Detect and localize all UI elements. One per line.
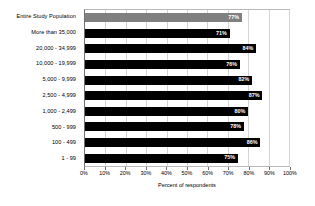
x-tick-label: 60%	[202, 171, 213, 176]
x-axis: 0%10%20%30%40%50%60%70%80%90%100%	[84, 167, 290, 179]
category-label-row: 1 - 99	[0, 151, 80, 167]
x-tick-label: 90%	[264, 171, 275, 176]
x-tick-label: 70%	[223, 171, 234, 176]
bar-value-label: 84%	[243, 46, 257, 51]
gridline	[289, 10, 290, 166]
x-tick-label: 10%	[99, 171, 110, 176]
category-label: 2,500 - 4,999	[42, 93, 76, 99]
bar-value-label: 87%	[249, 93, 263, 98]
bar-row: 77%	[85, 10, 289, 26]
category-label: Entire Study Population	[16, 14, 76, 20]
bar-row: 86%	[85, 135, 289, 151]
x-tick-label: 50%	[182, 171, 193, 176]
bar[interactable]: 84%	[85, 44, 256, 53]
bar[interactable]: 71%	[85, 29, 230, 38]
x-tick-label: 0%	[80, 171, 88, 176]
bar-row: 80%	[85, 104, 289, 120]
bar-row: 71%	[85, 26, 289, 42]
x-axis-title: Percent of respondents	[84, 183, 290, 189]
bar-row: 76%	[85, 57, 289, 73]
x-tick-label: 100%	[283, 171, 297, 176]
bar-row: 84%	[85, 41, 289, 57]
bar[interactable]: 80%	[85, 107, 248, 116]
bar-row: 75%	[85, 150, 289, 166]
bar[interactable]: 87%	[85, 91, 262, 100]
bar[interactable]: 86%	[85, 138, 260, 147]
category-label: 1 - 99	[61, 156, 76, 162]
category-label: 20,000 - 34,999	[36, 46, 76, 52]
category-label: 5,000 - 9,999	[42, 77, 76, 83]
category-label: 1,000 - 2,499	[42, 109, 76, 115]
bar-value-label: 76%	[226, 62, 240, 67]
x-tick-label: 80%	[243, 171, 254, 176]
bar[interactable]: 78%	[85, 122, 244, 131]
bar-value-label: 86%	[247, 140, 261, 145]
bar-value-label: 77%	[228, 15, 242, 20]
plot-area: 77%71%84%76%82%87%80%78%86%75%	[84, 9, 290, 167]
category-label-row: Entire Study Population	[0, 9, 80, 25]
category-label: 10,000 - 19,999	[36, 61, 76, 67]
category-label-row: More than 35,000	[0, 25, 80, 41]
bar-row: 87%	[85, 88, 289, 104]
bar[interactable]: 77%	[85, 13, 242, 22]
bar-series: 77%71%84%76%82%87%80%78%86%75%	[85, 10, 289, 166]
bar[interactable]: 82%	[85, 76, 252, 85]
bar-value-label: 78%	[230, 124, 244, 129]
category-label-row: 100 - 499	[0, 135, 80, 151]
x-tick-label: 30%	[140, 171, 151, 176]
bar-value-label: 82%	[238, 77, 252, 82]
category-label: More than 35,000	[31, 30, 76, 36]
category-label-row: 500 - 999	[0, 120, 80, 136]
x-tick-label: 40%	[161, 171, 172, 176]
category-label-row: 5,000 - 9,999	[0, 72, 80, 88]
bar-value-label: 80%	[234, 109, 248, 114]
bar[interactable]: 75%	[85, 154, 238, 163]
category-label: 500 - 999	[52, 125, 76, 131]
category-label-row: 10,000 - 19,999	[0, 56, 80, 72]
bar-value-label: 71%	[216, 31, 230, 36]
bar-row: 82%	[85, 72, 289, 88]
category-label: 100 - 499	[52, 140, 76, 146]
bar[interactable]: 76%	[85, 60, 240, 69]
category-axis: Entire Study PopulationMore than 35,0002…	[0, 9, 80, 167]
category-label-row: 1,000 - 2,499	[0, 104, 80, 120]
category-label-row: 2,500 - 4,999	[0, 88, 80, 104]
bar-value-label: 75%	[224, 155, 238, 160]
bar-chart: Entire Study PopulationMore than 35,0002…	[0, 0, 315, 206]
x-tick-label: 20%	[120, 171, 131, 176]
bar-row: 78%	[85, 119, 289, 135]
category-label-row: 20,000 - 34,999	[0, 41, 80, 57]
